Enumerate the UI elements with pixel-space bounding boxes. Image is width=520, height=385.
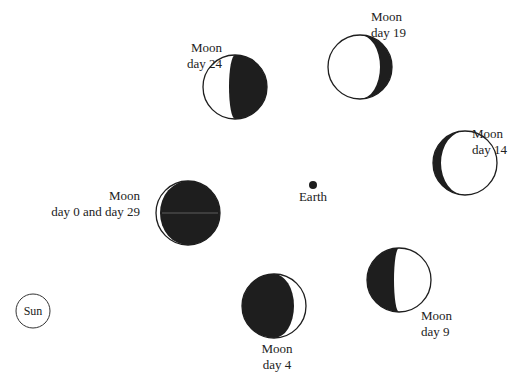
moon-day-label: day 19 [371,25,406,40]
moon-day-label: day 0 and day 29 [51,204,140,219]
moon-day-4: Moon day 4 [242,274,306,372]
moon-day-label: day 14 [472,142,508,157]
moon-label: Moon [109,188,141,203]
earth-label: Earth [299,189,328,204]
moon-day-9: Moon day 9 [367,248,453,339]
sun: Sun [16,294,50,328]
sun-label: Sun [24,304,43,318]
moon-shadow [242,274,294,338]
moon-day-24: Moon day 24 [187,40,267,119]
moon-day-19: Moon day 19 [328,9,406,99]
moon-day-label: day 9 [421,324,450,339]
moon-phase-diagram: Moon day 24 Moon day 19 Moon day 14 Moon… [0,0,520,385]
moon-label: Moon [261,341,293,356]
moon-label: Moon [191,40,223,55]
earth-dot [309,181,317,189]
moon-day-0-and-29: Moon day 0 and day 29 [51,181,220,245]
moon-day-label: day 4 [263,357,292,372]
moon-label: Moon [371,9,403,24]
moon-day-14: Moon day 14 [433,126,508,195]
moon-label: Moon [421,308,453,323]
moon-label: Moon [472,126,504,141]
moon-day-label: day 24 [187,56,223,71]
moon-shadow [229,55,267,119]
earth: Earth [299,181,328,204]
